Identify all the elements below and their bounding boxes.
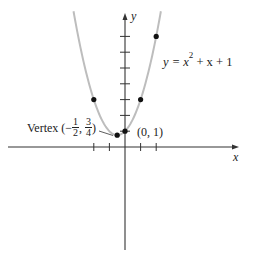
data-point <box>115 133 120 138</box>
vertex-label: Vertex (−12, 34) <box>27 117 96 138</box>
data-point <box>138 97 143 102</box>
x-axis-arrow-icon <box>232 145 239 150</box>
point-0-1-label: (0, 1) <box>137 126 163 138</box>
equation-label: y = x2 + x + 1 <box>163 54 232 69</box>
x-axis-label: x <box>233 151 238 163</box>
vertex-word: Vertex (− <box>27 121 72 135</box>
data-point <box>91 97 96 102</box>
equation-prefix: y = x <box>163 55 189 69</box>
equation-suffix: + x + 1 <box>193 55 232 69</box>
data-point <box>122 129 127 134</box>
vertex-close-paren: ) <box>92 121 96 135</box>
data-point <box>154 34 159 39</box>
y-axis-label: y <box>131 10 136 22</box>
y-axis-arrow-icon <box>123 13 128 20</box>
equation-exponent: 2 <box>189 50 194 60</box>
